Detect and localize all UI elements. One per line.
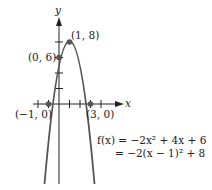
x-axis-label: x	[125, 98, 131, 109]
y-intercept-point	[56, 55, 62, 61]
graph-canvas	[0, 0, 212, 190]
y-axis-label: y	[55, 5, 61, 16]
root-left-point	[46, 101, 52, 107]
equation-line-1: f(x) = −2x² + 4x + 6	[97, 135, 206, 146]
equation-line-2: = −2(x − 1)² + 8	[115, 148, 205, 159]
y-axis-arrow-icon	[56, 17, 62, 26]
root-right-label: (3, 0)	[86, 109, 114, 120]
x-axis-arrow-icon	[115, 101, 124, 107]
y-intercept-label: (0, 6)	[28, 52, 56, 63]
root-left-label: (−1, 0)	[15, 109, 52, 120]
root-right-point	[88, 101, 94, 107]
vertex-label: (1, 8)	[71, 30, 99, 41]
